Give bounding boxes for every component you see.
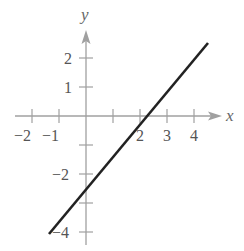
y-axis-label: y: [79, 5, 89, 24]
x-tick-label: 3: [163, 127, 171, 144]
y-tick-label: −2: [52, 166, 69, 183]
x-axis: [15, 109, 222, 123]
y-axis: [79, 30, 93, 245]
x-tick-label: −2: [14, 127, 31, 144]
x-tick-label: 2: [136, 127, 144, 144]
y-tick-label: −4: [52, 224, 69, 241]
x-axis-label: x: [225, 106, 234, 125]
line-graph: y x −2 −1 2 3 4 2 1 −2 −4: [0, 0, 244, 251]
x-tick-label: 4: [190, 127, 198, 144]
x-tick-label: −1: [42, 127, 59, 144]
y-tick-label: 2: [64, 50, 72, 67]
series-line: [49, 43, 208, 234]
y-tick-label: 1: [64, 79, 72, 96]
